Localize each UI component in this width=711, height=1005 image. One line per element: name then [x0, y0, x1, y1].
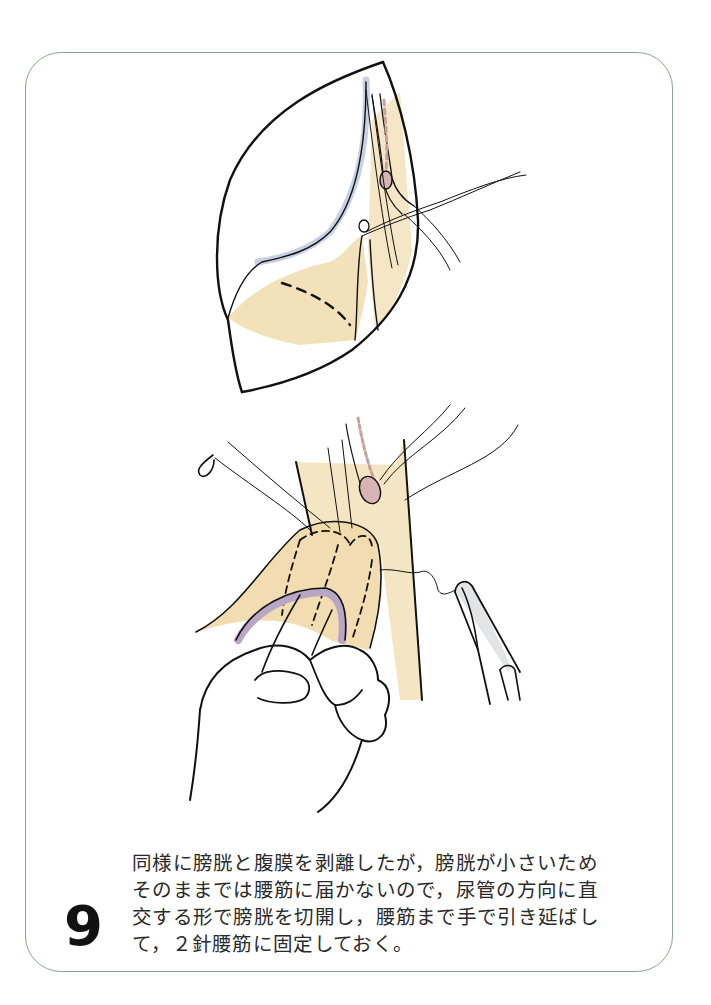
caption-text: 同様に膀胱と腹膜を剥離したが，膀胱が小さいため そのままでは腰筋に届かないので，… [132, 850, 667, 958]
lower-illustration [190, 405, 520, 812]
surgical-illustration [0, 0, 711, 840]
upper-illustration [217, 62, 526, 392]
caption-line: 交する形で膀胱を切開し，腰筋まで手で引き延ばし [132, 904, 667, 931]
caption-line: 同様に膀胱と腹膜を剥離したが，膀胱が小さいため [132, 850, 667, 877]
caption-line: て，２針腰筋に固定しておく。 [132, 931, 667, 958]
caption-line: そのままでは腰筋に届かないので，尿管の方向に直 [132, 877, 667, 904]
step-number: 9 [64, 898, 103, 954]
